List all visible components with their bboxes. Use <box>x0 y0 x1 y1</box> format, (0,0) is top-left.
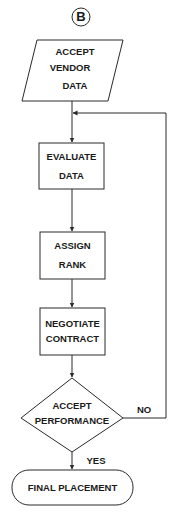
negotiate-contract-label-2: CONTRACT <box>40 333 105 344</box>
accept-performance-label-2: PERFORMANCE <box>22 415 122 426</box>
assign-rank-label-1: ASSIGN <box>40 240 105 251</box>
negotiate-contract-label-1: NEGOTIATE <box>40 318 105 329</box>
edge-label-yes: YES <box>85 455 107 466</box>
final-placement-label: FINAL PLACEMENT <box>12 482 133 493</box>
assign-rank-label-2: RANK <box>40 259 105 270</box>
connector-b-label: B <box>72 8 90 26</box>
evaluate-data-shape <box>39 143 104 189</box>
negotiate-contract-shape <box>40 308 105 355</box>
accept-vendor-data-label-3: DATA <box>50 80 100 91</box>
accept-performance-label-1: ACCEPT <box>36 400 108 411</box>
accept-vendor-data-label-1: ACCEPT <box>50 46 100 57</box>
evaluate-data-label-2: DATA <box>39 170 104 181</box>
edge-label-no: NO <box>134 404 154 415</box>
accept-vendor-data-label-2: VENDOR <box>45 62 95 73</box>
evaluate-data-label-1: EVALUATE <box>39 151 104 162</box>
